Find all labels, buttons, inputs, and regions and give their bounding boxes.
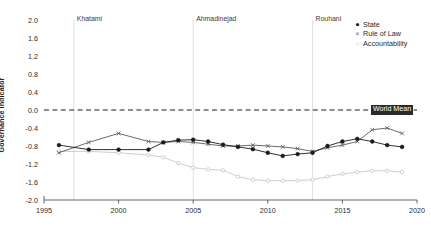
y-tick-label: -0.8 [12, 142, 38, 151]
data-point [251, 178, 254, 181]
x-tick-label: 2010 [255, 206, 281, 215]
data-point [385, 169, 388, 172]
data-point [400, 145, 404, 149]
data-point [221, 143, 225, 147]
data-point [87, 148, 91, 152]
data-point [341, 172, 344, 175]
data-point [281, 179, 284, 182]
data-point [147, 148, 151, 152]
legend-label-rule-of-law: Rule of Law [363, 29, 401, 38]
regime-label-khatami: Khatami [77, 15, 102, 22]
legend-item-rule-of-law[interactable]: × Rule of Law [352, 29, 407, 38]
y-tick-label: -2.0 [12, 196, 38, 205]
data-point [192, 166, 195, 169]
y-tick-label: -0.4 [12, 124, 38, 133]
data-point [371, 169, 374, 172]
legend-marker-x-icon: × [352, 29, 363, 38]
x-tick-marks [44, 200, 417, 204]
y-tick-label: 0.4 [12, 88, 38, 97]
data-point [206, 140, 210, 144]
data-point [266, 179, 269, 182]
y-tick-label: 0.0 [12, 106, 38, 115]
series-state [57, 137, 404, 158]
data-point [57, 143, 61, 147]
x-tick-label: 2020 [404, 206, 430, 215]
data-point [221, 169, 224, 172]
data-point [206, 168, 209, 171]
data-point [176, 138, 180, 142]
data-point [326, 144, 330, 148]
data-point [117, 148, 121, 152]
data-point [236, 175, 239, 178]
data-point [296, 179, 299, 182]
legend-item-state[interactable]: ● State [352, 20, 407, 29]
y-tick-label: 2.0 [12, 16, 38, 25]
data-point [236, 145, 240, 149]
data-point [191, 138, 195, 142]
x-tick-label: 2015 [329, 206, 355, 215]
x-tick-label: 2005 [180, 206, 206, 215]
series-line [59, 151, 402, 180]
data-point [281, 154, 285, 158]
legend-marker-open-circle-icon: ○ [352, 39, 363, 48]
data-point [400, 132, 404, 136]
data-point [266, 151, 270, 155]
legend-item-accountability[interactable]: ○ Accountability [352, 39, 407, 48]
y-tick-label: -1.2 [12, 160, 38, 169]
series-rule-of-law [57, 126, 404, 155]
regime-label-ahmadinejad: Ahmadinejad [196, 15, 236, 22]
series-line [59, 139, 402, 156]
legend-marker-filled-circle-icon: ● [352, 20, 363, 29]
data-point [326, 175, 329, 178]
x-tick-label: 2000 [106, 206, 132, 215]
chart-legend: ● State × Rule of Law ○ Accountability [352, 20, 407, 48]
data-point [311, 151, 315, 155]
legend-label-accountability: Accountability [363, 39, 407, 48]
y-tick-label: 1.6 [12, 34, 38, 43]
x-tick-label: 1995 [31, 206, 57, 215]
y-tick-label: -1.6 [12, 178, 38, 187]
y-axis-title: Governance Indicator [0, 78, 6, 153]
data-point [147, 153, 150, 156]
data-point [177, 161, 180, 164]
y-tick-label: 1.2 [12, 52, 38, 61]
data-point [341, 140, 345, 144]
regime-gridlines [74, 20, 313, 200]
data-point [400, 170, 403, 173]
governance-indicator-chart: Governance Indicator 2.01.61.20.80.40.0-… [0, 0, 431, 230]
data-point [162, 156, 165, 159]
y-tick-label: 0.8 [12, 70, 38, 79]
data-point [370, 140, 374, 144]
data-point [296, 152, 300, 156]
data-point [355, 137, 359, 141]
data-point [385, 143, 389, 147]
world-mean-label: World Mean [371, 105, 413, 115]
legend-label-state: State [363, 20, 380, 29]
data-point [311, 178, 314, 181]
data-point [161, 141, 165, 145]
data-series-layer [57, 126, 404, 182]
data-point [356, 170, 359, 173]
data-point [251, 147, 255, 151]
series-accountability [57, 150, 404, 183]
regime-label-rouhani: Rouhani [316, 15, 342, 22]
